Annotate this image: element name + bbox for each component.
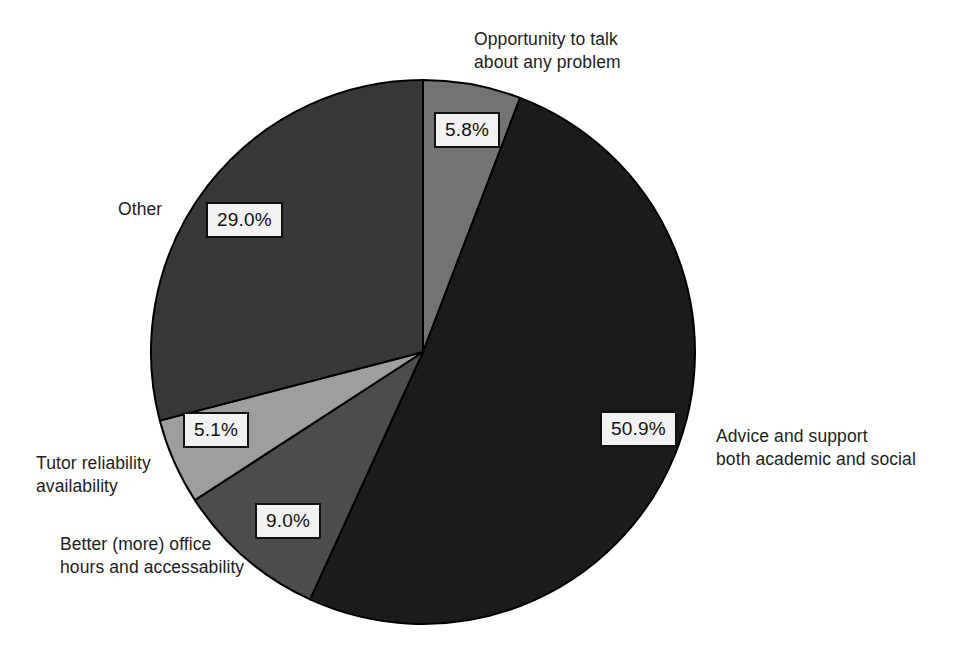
slice-value-opportunity-to-talk: 5.8% bbox=[434, 112, 500, 148]
slice-value-tutor-reliability: 5.1% bbox=[183, 412, 249, 448]
slice-label-tutor-reliability: Tutor reliability availability bbox=[36, 452, 151, 498]
slice-label-opportunity-to-talk: Opportunity to talk about any problem bbox=[474, 28, 621, 74]
pie-chart: Opportunity to talk about any problem Ad… bbox=[0, 0, 966, 664]
slice-label-other: Other bbox=[118, 198, 162, 221]
slice-value-advice-and-support: 50.9% bbox=[600, 411, 677, 447]
slice-label-advice-and-support: Advice and support both academic and soc… bbox=[716, 425, 916, 471]
slice-value-better-office-hours: 9.0% bbox=[255, 503, 321, 539]
slice-label-better-office-hours: Better (more) office hours and accessabi… bbox=[60, 533, 244, 579]
slice-value-other: 29.0% bbox=[206, 202, 283, 238]
